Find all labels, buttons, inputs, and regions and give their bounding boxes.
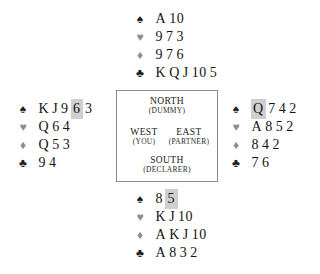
heart-icon: ♥: [133, 211, 147, 223]
cards-south-club: A832: [154, 245, 199, 261]
card: 5: [51, 137, 62, 153]
seat-north-role: (DUMMY): [117, 107, 217, 116]
diamond-icon: ♦: [133, 229, 147, 241]
card: 9: [60, 101, 71, 117]
card: 8: [168, 245, 179, 261]
card: 8: [250, 137, 261, 153]
suit-row-east-heart: ♥A852: [229, 118, 298, 136]
card: A: [250, 119, 264, 135]
card: K: [154, 209, 168, 225]
card: 4: [48, 155, 59, 171]
cards-west-spade: KJ963: [37, 99, 94, 119]
card: J: [168, 209, 177, 225]
seat-west: WEST (YOU): [120, 127, 168, 147]
card: 10: [190, 227, 208, 243]
card: 2: [285, 119, 296, 135]
seat-south-role: (DECLARER): [117, 166, 217, 175]
cards-north-spade: A10: [154, 11, 186, 27]
suit-row-south-diamond: ♦AKJ10: [133, 226, 208, 244]
card: 5: [208, 65, 219, 81]
card: 6: [51, 119, 62, 135]
card: 8: [264, 119, 275, 135]
card: 9: [154, 29, 165, 45]
club-icon: ♣: [133, 67, 147, 79]
cards-north-heart: 973: [154, 29, 186, 45]
seat-north: NORTH (DUMMY): [117, 96, 217, 116]
suit-row-west-spade: ♠KJ963: [16, 100, 94, 118]
seat-south: SOUTH (DECLARER): [117, 155, 217, 175]
suit-row-north-spade: ♠A10: [133, 10, 219, 28]
card: 2: [271, 137, 282, 153]
cards-south-diamond: AKJ10: [154, 227, 208, 243]
card: 7: [165, 29, 176, 45]
card-highlighted: Q: [251, 99, 267, 119]
cards-north-diamond: 976: [154, 47, 186, 63]
card: Q: [37, 119, 51, 135]
card: 7: [165, 47, 176, 63]
card: 3: [178, 245, 189, 261]
card: 4: [261, 137, 272, 153]
suit-row-west-heart: ♥Q64: [16, 118, 94, 136]
suit-row-south-club: ♣A832: [133, 244, 208, 262]
card: 10: [168, 11, 186, 27]
suit-row-west-diamond: ♦Q53: [16, 136, 94, 154]
card: J: [181, 65, 190, 81]
bridge-hand-diagram: ♠A10♥973♦976♣KQJ105 ♠KJ963♥Q64♦Q53♣94 ♠Q…: [0, 0, 320, 274]
suit-row-north-club: ♣KQJ105: [133, 64, 219, 82]
card: 2: [288, 101, 299, 117]
suit-row-east-spade: ♠Q742: [229, 100, 298, 118]
diamond-icon: ♦: [229, 139, 243, 151]
suit-row-south-heart: ♥KJ10: [133, 208, 208, 226]
cards-east-spade: Q742: [250, 99, 298, 119]
cards-north-club: KQJ105: [154, 65, 219, 81]
card: 8: [154, 191, 165, 207]
card: K: [154, 65, 168, 81]
cards-south-spade: 85: [154, 189, 178, 209]
card: K: [168, 227, 182, 243]
heart-icon: ♥: [133, 31, 147, 43]
card: 6: [175, 47, 186, 63]
card: J: [181, 227, 190, 243]
cards-east-club: 76: [250, 155, 271, 171]
spade-icon: ♠: [229, 103, 243, 115]
suit-row-east-diamond: ♦842: [229, 136, 298, 154]
card: 4: [277, 101, 288, 117]
card: Q: [37, 137, 51, 153]
card: 9: [154, 47, 165, 63]
cards-south-heart: KJ10: [154, 209, 195, 225]
card: A: [154, 11, 168, 27]
cards-west-diamond: Q53: [37, 137, 72, 153]
card: A: [154, 245, 168, 261]
club-icon: ♣: [16, 157, 30, 169]
suit-row-east-club: ♣76: [229, 154, 298, 172]
card: 10: [190, 65, 208, 81]
card: 3: [175, 29, 186, 45]
diamond-icon: ♦: [16, 139, 30, 151]
card: 7: [250, 155, 261, 171]
card: 6: [261, 155, 272, 171]
club-icon: ♣: [133, 247, 147, 259]
card: 9: [37, 155, 48, 171]
seat-east: EAST (PARTNER): [163, 127, 215, 147]
suit-row-north-diamond: ♦976: [133, 46, 219, 64]
seat-west-role: (YOU): [120, 138, 168, 147]
card: 3: [84, 101, 95, 117]
suit-row-south-spade: ♠85: [133, 190, 208, 208]
compass-box: NORTH (DUMMY) WEST (YOU) EAST (PARTNER) …: [116, 90, 218, 182]
card-highlighted: 6: [71, 99, 84, 119]
seat-east-role: (PARTNER): [163, 138, 215, 147]
club-icon: ♣: [229, 157, 243, 169]
cards-east-diamond: 842: [250, 137, 282, 153]
hand-east: ♠Q742♥A852♦842♣76: [229, 100, 298, 172]
card: K: [37, 101, 51, 117]
cards-west-club: 94: [37, 155, 58, 171]
heart-icon: ♥: [229, 121, 243, 133]
card: J: [51, 101, 60, 117]
cards-west-heart: Q64: [37, 119, 72, 135]
card: A: [154, 227, 168, 243]
card: 3: [61, 137, 72, 153]
hand-south: ♠85♥KJ10♦AKJ10♣A832: [133, 190, 208, 262]
card: 7: [267, 101, 278, 117]
diamond-icon: ♦: [133, 49, 147, 61]
spade-icon: ♠: [16, 103, 30, 115]
